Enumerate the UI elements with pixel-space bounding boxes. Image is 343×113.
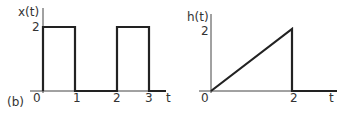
xlabel: t [329,91,334,105]
xtick-2: 2 [113,91,121,105]
plot-h-of-t: h(t) 2 0 2 t [187,10,337,105]
signals-diagram: x(t) 2 0 1 2 3 t (b) h(t) 2 0 2 t [0,0,343,113]
xtick-1: 1 [73,91,81,105]
signal-x [43,27,166,91]
xtick-0: 0 [201,91,209,105]
figure-label: (b) [7,95,24,109]
xlabel: t [166,91,171,105]
signal-h [211,29,337,91]
ylabel: x(t) [18,5,39,19]
xtick-2: 2 [290,91,298,105]
ytick-2: 2 [32,20,40,34]
plot-x-of-t: x(t) 2 0 1 2 3 t (b) [7,5,171,109]
xtick-3: 3 [145,91,153,105]
ytick-2: 2 [201,24,209,38]
xtick-0: 0 [33,91,41,105]
ylabel: h(t) [187,10,209,24]
